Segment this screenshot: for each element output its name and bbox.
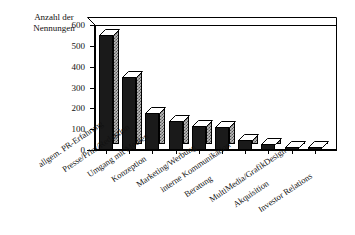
x-axis-tick (292, 150, 293, 154)
x-axis-tick (315, 150, 316, 154)
bar-chart: Anzahl der Nennungen 0100200300400500600… (0, 0, 355, 235)
x-axis-labels: allgem. PR-ErfahrungPresse/Print/Redakti… (0, 0, 355, 235)
x-axis-tick (222, 150, 223, 154)
x-axis-tick (176, 150, 177, 154)
x-axis-tick (129, 150, 130, 154)
x-axis-tick (152, 150, 153, 154)
x-axis-tick (268, 150, 269, 154)
x-axis-tick (245, 150, 246, 154)
x-axis-tick (106, 150, 107, 154)
x-axis-tick (199, 150, 200, 154)
